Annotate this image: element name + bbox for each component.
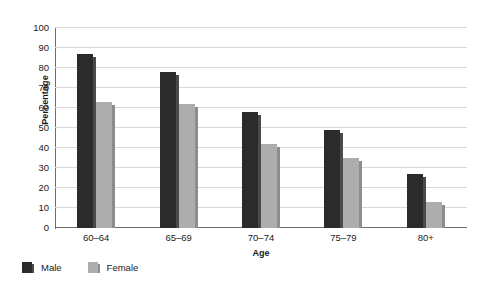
legend-swatch-male <box>22 262 34 273</box>
x-tick-label-80+: 80+ <box>396 232 456 243</box>
bar-group <box>242 28 280 228</box>
legend-label: Male <box>41 262 62 273</box>
bar-face <box>261 144 277 228</box>
bar-female-75–79 <box>343 158 362 228</box>
x-tick-label-75–79: 75–79 <box>313 232 373 243</box>
bar-side-shading <box>359 158 362 228</box>
bar-female-65–69 <box>179 104 198 228</box>
bar-side-shading <box>442 202 445 228</box>
bar-group <box>324 28 362 228</box>
bar-face <box>160 72 176 228</box>
bar-top-notch <box>195 104 198 107</box>
bar-top-notch <box>176 72 179 75</box>
y-tick-label-10: 10 <box>23 202 49 213</box>
y-tick-label-20: 20 <box>23 182 49 193</box>
bar-side-shading <box>195 104 198 228</box>
bar-male-75–79 <box>324 130 343 228</box>
y-tick-label-50: 50 <box>23 122 49 133</box>
x-tick-label-70–74: 70–74 <box>231 232 291 243</box>
bar-face <box>343 158 359 228</box>
bar-face <box>407 174 423 228</box>
bar-male-80+ <box>407 174 426 228</box>
y-tick-label-40: 40 <box>23 142 49 153</box>
bar-group <box>77 28 115 228</box>
plot-area: 0102030405060708090100 60–6465–6970–7475… <box>55 28 467 228</box>
y-tick-label-0: 0 <box>23 222 49 233</box>
y-tick-label-80: 80 <box>23 62 49 73</box>
legend-swatch-female <box>88 262 100 273</box>
bar-face <box>242 112 258 228</box>
chart-legend: MaleFemale <box>22 262 138 273</box>
x-tick-label-65–69: 65–69 <box>149 232 209 243</box>
y-tick-label-70: 70 <box>23 82 49 93</box>
legend-swatch-side <box>98 264 100 273</box>
y-tick-label-90: 90 <box>23 42 49 53</box>
bar-side-shading <box>277 144 280 228</box>
legend-swatch-side <box>32 264 34 273</box>
bar-top-notch <box>340 130 343 133</box>
y-axis-line <box>55 28 56 229</box>
bar-male-70–74 <box>242 112 261 228</box>
bar-group <box>160 28 198 228</box>
bar-face <box>96 102 112 228</box>
legend-swatch-face <box>88 262 98 273</box>
x-tick-label-60–64: 60–64 <box>66 232 126 243</box>
bar-female-70–74 <box>261 144 280 228</box>
bar-top-notch <box>442 202 445 205</box>
bar-male-65–69 <box>160 72 179 228</box>
legend-item-male[interactable]: Male <box>22 262 62 273</box>
bar-top-notch <box>423 174 426 177</box>
bar-face <box>324 130 340 228</box>
bar-top-notch <box>258 112 261 115</box>
bar-top-notch <box>112 102 115 105</box>
y-tick-label-100: 100 <box>23 22 49 33</box>
bar-chart: Percentage 0102030405060708090100 60–646… <box>0 0 479 294</box>
bar-group <box>407 28 445 228</box>
y-tick-label-60: 60 <box>23 102 49 113</box>
legend-item-female[interactable]: Female <box>88 262 139 273</box>
bar-face <box>179 104 195 228</box>
y-tick-label-30: 30 <box>23 162 49 173</box>
legend-swatch-face <box>22 262 32 273</box>
bar-face <box>426 202 442 228</box>
bar-female-60–64 <box>96 102 115 228</box>
bar-top-notch <box>93 54 96 57</box>
x-axis-title: Age <box>55 248 467 258</box>
bar-top-notch <box>277 144 280 147</box>
legend-label: Female <box>107 262 139 273</box>
bar-face <box>77 54 93 228</box>
bar-male-60–64 <box>77 54 96 228</box>
bar-top-notch <box>359 158 362 161</box>
bar-side-shading <box>112 102 115 228</box>
bar-female-80+ <box>426 202 445 228</box>
